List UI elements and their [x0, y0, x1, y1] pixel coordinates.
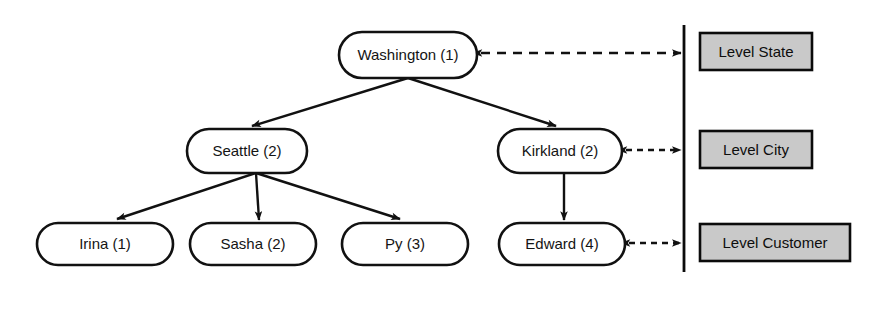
- node-sasha[interactable]: Sasha (2): [190, 223, 316, 265]
- node-py-label: Py (3): [385, 235, 425, 252]
- level-box-state[interactable]: Level State: [700, 33, 812, 70]
- node-edward[interactable]: Edward (4): [499, 223, 625, 265]
- node-seattle-label: Seattle (2): [212, 142, 281, 159]
- level-box-customer[interactable]: Level Customer: [700, 224, 850, 261]
- node-sasha-label: Sasha (2): [220, 235, 285, 252]
- edge-washington-kirkland: [408, 78, 556, 126]
- diagram-canvas: Washington (1) Seattle (2) Kirkland (2) …: [0, 0, 874, 336]
- hierarchy-diagram: Washington (1) Seattle (2) Kirkland (2) …: [0, 0, 874, 336]
- node-irina-label: Irina (1): [79, 235, 131, 252]
- node-irina[interactable]: Irina (1): [37, 223, 173, 265]
- node-py[interactable]: Py (3): [342, 223, 468, 265]
- node-washington-label: Washington (1): [357, 46, 458, 63]
- edge-seattle-py: [256, 173, 400, 219]
- node-washington[interactable]: Washington (1): [339, 32, 477, 78]
- node-kirkland-label: Kirkland (2): [522, 142, 599, 159]
- level-box-city-label: Level City: [723, 141, 789, 158]
- edge-seattle-sasha: [256, 173, 259, 220]
- level-box-city[interactable]: Level City: [700, 131, 812, 168]
- level-box-customer-label: Level Customer: [722, 234, 827, 251]
- node-kirkland[interactable]: Kirkland (2): [498, 129, 622, 173]
- node-edward-label: Edward (4): [525, 235, 598, 252]
- level-box-state-label: Level State: [718, 43, 793, 60]
- edge-washington-seattle: [252, 78, 408, 126]
- edge-seattle-irina: [117, 173, 256, 219]
- node-seattle[interactable]: Seattle (2): [187, 129, 307, 173]
